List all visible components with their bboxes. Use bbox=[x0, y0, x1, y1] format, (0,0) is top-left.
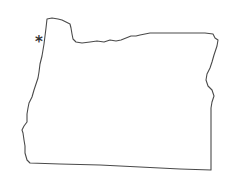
state-border bbox=[22, 18, 218, 170]
oregon-outline bbox=[0, 0, 236, 176]
state-outline-map bbox=[0, 0, 236, 176]
location-marker: * bbox=[35, 35, 43, 50]
asterisk-icon: * bbox=[35, 33, 43, 51]
